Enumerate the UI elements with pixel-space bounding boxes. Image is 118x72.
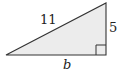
vertical-leg-label: 5	[109, 20, 117, 35]
triangle-shape	[6, 3, 106, 55]
right-triangle-diagram: 11 5 b	[0, 0, 118, 72]
base-label: b	[63, 57, 71, 72]
hypotenuse-label: 11	[40, 12, 57, 27]
